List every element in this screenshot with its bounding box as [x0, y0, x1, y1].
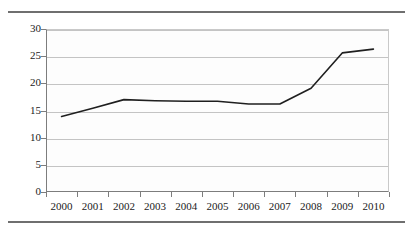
x-axis-tick-label: 2003 — [140, 201, 171, 212]
x-axis-tick-mark — [46, 192, 47, 197]
x-axis-tick-label: 2006 — [233, 201, 264, 212]
x-axis-tick-label: 2002 — [108, 201, 139, 212]
y-axis-tick-label: 15 — [19, 105, 41, 116]
y-axis-tick-label: 10 — [19, 132, 41, 143]
x-axis-tick-mark — [389, 192, 390, 197]
x-axis-tick-mark — [171, 192, 172, 197]
data-series-line — [46, 29, 389, 192]
x-axis-tick-mark — [140, 192, 141, 197]
x-axis-tick-mark — [327, 192, 328, 197]
x-axis-tick-label: 2005 — [202, 201, 233, 212]
x-axis-tick-mark — [77, 192, 78, 197]
x-axis-tick-mark — [202, 192, 203, 197]
y-axis-tick-label: 5 — [19, 159, 41, 170]
line-chart: 051015202530 200020012002200320042005200… — [0, 18, 413, 214]
x-axis-tick-mark — [233, 192, 234, 197]
x-axis-tick-mark — [264, 192, 265, 197]
x-axis-tick-label: 2010 — [358, 201, 389, 212]
y-axis-tick-label: 20 — [19, 77, 41, 88]
y-axis-tick-label: 30 — [19, 23, 41, 34]
top-divider-rule — [8, 11, 405, 13]
x-axis-tick-label: 2001 — [77, 201, 108, 212]
y-axis-tick-label: 25 — [19, 50, 41, 61]
x-axis-tick-label: 2009 — [327, 201, 358, 212]
x-axis-tick-label: 2008 — [295, 201, 326, 212]
x-axis-tick-mark — [108, 192, 109, 197]
chart-page: 051015202530 200020012002200320042005200… — [0, 0, 413, 232]
x-axis-tick-label: 2007 — [264, 201, 295, 212]
bottom-divider-rule — [8, 221, 405, 223]
x-axis-tick-mark — [358, 192, 359, 197]
x-axis-tick-mark — [295, 192, 296, 197]
y-axis-tick-label: 0 — [19, 186, 41, 197]
x-axis-tick-label: 2004 — [171, 201, 202, 212]
x-axis-tick-label: 2000 — [46, 201, 77, 212]
series-line-1 — [62, 49, 374, 116]
